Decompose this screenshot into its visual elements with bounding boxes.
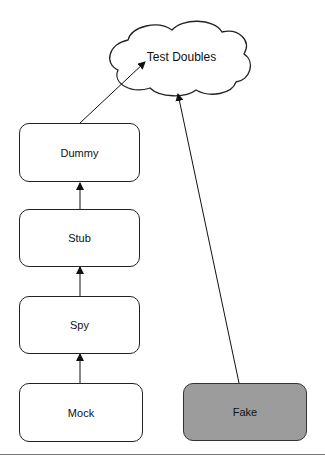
node-spy: Spy [19, 296, 140, 354]
node-fake: Fake [183, 383, 307, 441]
node-stub: Stub [19, 209, 140, 267]
caption-divider [0, 454, 325, 455]
edge-fake-to-root [178, 94, 239, 383]
node-mock: Mock [19, 383, 143, 442]
node-dummy: Dummy [19, 123, 140, 182]
root-node-label: Test Doubles [113, 22, 250, 92]
